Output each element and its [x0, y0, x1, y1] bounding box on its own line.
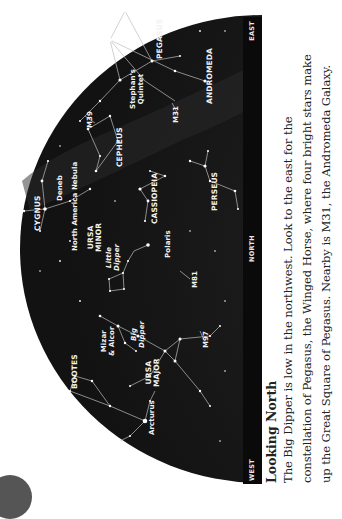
horizon-band: WEST NORTH EAST	[243, 17, 262, 484]
label-ursa-minor: URSA MINOR	[87, 223, 103, 252]
label-deneb: Deneb	[56, 175, 64, 201]
sky-chart: CYGNUS Deneb North America Nebula M39 CE…	[0, 0, 262, 501]
label-m31: M31	[172, 106, 180, 123]
label-cassiopeia: CASSIOPEIA	[151, 173, 159, 224]
label-north-america-nebula: North America Nebula	[71, 162, 79, 251]
label-mizar-line2: & Alcor	[108, 327, 116, 356]
direction-west: WEST	[243, 459, 262, 481]
label-cygnus: CYGNUS	[34, 196, 42, 231]
caption-line-3: up the Great Square of Pegasus. Nearby i…	[317, 3, 336, 483]
label-big-dipper: Big Dipper	[130, 321, 146, 348]
label-mizar-line1: Mizar	[100, 327, 108, 356]
label-ursa-major: URSA MAJOR	[145, 358, 161, 387]
label-polaris: Polaris	[164, 230, 172, 258]
label-stephans-line2: Quintet	[137, 69, 145, 109]
label-stephans-quintet: Stephan's Quintet	[129, 69, 145, 109]
label-m39: M39	[86, 111, 94, 128]
caption-line-1: The Big Dipper is low in the northwest. …	[279, 3, 298, 483]
label-ursa-minor-line2: MINOR	[95, 223, 103, 252]
label-little-dipper: Little Dipper	[105, 244, 121, 271]
label-cepheus: CEPHEUS	[116, 127, 124, 167]
caption-title: Looking North	[264, 3, 279, 483]
label-bootes: BOOTES	[71, 354, 79, 389]
label-m97: M97	[202, 331, 210, 348]
direction-east: EAST	[243, 21, 262, 41]
label-m81: M81	[191, 271, 199, 288]
label-little-dipper-line2: Dipper	[113, 244, 121, 271]
label-perseus: PERSEUS	[211, 172, 219, 211]
label-pegasus: PEGASUS	[156, 19, 164, 59]
label-arcturus: Arcturus	[148, 400, 156, 435]
label-andromeda: ANDROMEDA	[206, 48, 214, 104]
caption-line-2: constellation of Pegasus, the Winged Hor…	[298, 3, 317, 483]
label-ursa-major-line2: MAJOR	[153, 358, 161, 387]
label-big-dipper-line1: Big	[130, 321, 138, 348]
label-big-dipper-line2: Dipper	[138, 321, 146, 348]
label-stephans-line1: Stephan's	[129, 69, 137, 109]
caption: Looking North The Big Dipper is low in t…	[264, 3, 336, 483]
label-little-dipper-line1: Little	[105, 244, 113, 271]
label-mizar-alcor: Mizar & Alcor	[100, 327, 116, 356]
direction-north: NORTH	[243, 235, 262, 262]
